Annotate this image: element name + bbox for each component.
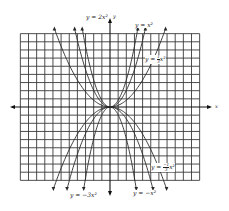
y-axis-up-arrow-icon xyxy=(108,18,112,23)
curve-arrow-icon xyxy=(80,27,84,31)
label-prefix: y = xyxy=(145,55,157,62)
label-prefix: y = xyxy=(151,163,163,170)
x-axis-right-arrow-icon xyxy=(207,105,212,109)
coordinate-graph xyxy=(0,0,229,211)
curve-arrow-icon xyxy=(73,27,77,31)
label-y-2x2: y = 2x² xyxy=(86,14,108,20)
label-y-third-x2: y = 13x² xyxy=(145,55,166,64)
curve-arrow-icon xyxy=(165,187,169,191)
curve-arrow-icon xyxy=(53,27,57,31)
x-axis-left-arrow-icon xyxy=(10,105,15,109)
label-y-neg-third-x2: y = −13x² xyxy=(151,163,175,172)
label-suffix: x² xyxy=(160,55,166,62)
y-axis-down-arrow-icon xyxy=(108,191,112,196)
y-axis-label: y xyxy=(113,14,116,19)
curve-arrow-icon xyxy=(52,187,56,191)
label-y-x2: y = x² xyxy=(135,22,153,28)
x-axis-label: x xyxy=(215,104,218,109)
curve-arrow-icon xyxy=(164,27,168,31)
label-y-neg-3x2: y = −3x² xyxy=(70,192,97,198)
label-y-neg-x2: y = −x² xyxy=(133,190,156,196)
label-suffix: x² xyxy=(169,163,175,170)
curve-arrow-icon xyxy=(65,187,69,191)
